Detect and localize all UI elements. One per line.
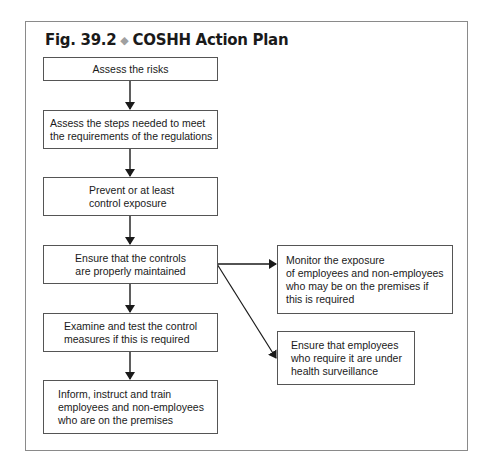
arrow-4-surveillance — [217, 264, 276, 358]
step-text: Prevent or at least control exposure — [89, 184, 174, 210]
step-prevent-exposure: Prevent or at least control exposure — [43, 177, 218, 216]
step-inform-train: Inform, instruct and train employees and… — [43, 380, 218, 434]
step-ensure-controls: Ensure that the controls are properly ma… — [43, 245, 218, 284]
branch-text: Monitor the exposure of employees and no… — [286, 254, 444, 306]
step-assess-risks: Assess the risks — [43, 57, 218, 81]
step-text: Examine and test the control measures if… — [64, 320, 197, 346]
branch-text: Ensure that employees who require it are… — [291, 339, 402, 378]
step-assess-steps: Assess the steps needed to meet the requ… — [43, 110, 218, 149]
step-text: Inform, instruct and train employees and… — [58, 388, 204, 427]
step-text: Assess the steps needed to meet the requ… — [50, 117, 212, 143]
branch-monitor-exposure: Monitor the exposure of employees and no… — [277, 245, 453, 314]
step-text: Ensure that the controls are properly ma… — [75, 252, 186, 278]
step-text: Assess the risks — [93, 63, 169, 76]
step-examine-test: Examine and test the control measures if… — [43, 313, 218, 352]
branch-health-surveillance: Ensure that employees who require it are… — [277, 331, 415, 385]
